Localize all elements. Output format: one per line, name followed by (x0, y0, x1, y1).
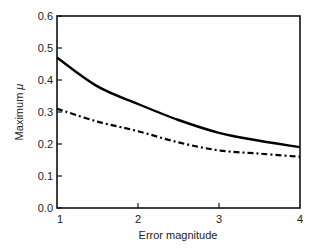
y-tick-label: 0.2 (38, 138, 53, 150)
x-tick-label: 1 (57, 213, 63, 225)
series-solid-line (57, 58, 300, 148)
y-tick-label: 0.5 (38, 42, 53, 54)
plot-frame (57, 16, 300, 208)
y-tick-label: 0.6 (38, 10, 53, 22)
x-tick-label: 4 (297, 213, 303, 225)
series-dash-dot-line (57, 109, 300, 157)
x-tick-label: 2 (135, 213, 141, 225)
y-tick-labels: 0.0 0.1 0.2 0.3 0.4 0.5 0.6 (38, 10, 53, 214)
y-axis-label-text: Maximum (13, 90, 25, 141)
x-tick-label: 3 (216, 213, 222, 225)
y-tick-label: 0.1 (38, 170, 53, 182)
y-axis-label: Maximum μ (13, 84, 25, 141)
y-tick-label: 0.3 (38, 106, 53, 118)
y-axis-label-symbol: μ (13, 84, 25, 91)
x-axis-label: Error magnitude (139, 229, 218, 241)
y-tick-label: 0.0 (38, 202, 53, 214)
y-tick-label: 0.4 (38, 74, 53, 86)
x-tick-labels: 1 2 3 4 (57, 213, 303, 225)
chart-canvas: 0.0 0.1 0.2 0.3 0.4 0.5 0.6 1 2 3 4 Erro… (0, 0, 318, 252)
